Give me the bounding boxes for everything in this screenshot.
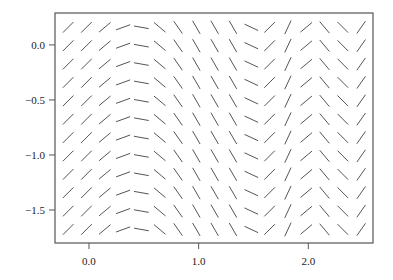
slope-segment [63,132,74,143]
slope-segment [338,22,349,33]
slope-segment [63,169,74,180]
slope-segment [211,21,219,34]
slope-segment [154,59,165,69]
slope-segment [320,187,330,198]
slope-segment [285,94,291,108]
slope-segment [320,40,330,51]
slope-segment [193,186,201,199]
slope-segment [81,132,92,143]
slope-segment [116,227,130,232]
slope-segment [300,170,312,180]
slope-segment [134,81,149,84]
slope-segment [193,58,201,71]
y-tick-label: −0.5 [25,94,45,106]
slope-segment [338,96,349,107]
slope-segment [63,151,74,162]
slope-segment [81,22,92,33]
slope-segment [338,187,349,198]
slope-segment [174,21,183,33]
slope-segment [211,168,219,181]
slope-segment [154,206,165,216]
slope-segment [174,113,183,125]
slope-segment [264,224,275,235]
slope-segment [99,206,110,216]
slope-segment [264,22,275,33]
y-tick-label: 0.0 [31,39,45,51]
slope-segment [229,94,237,107]
slope-segment [357,21,366,33]
slope-segment [211,205,219,218]
slope-segment [81,96,92,107]
slope-segment [338,151,349,162]
slope-segment [63,77,74,88]
slope-segment [300,188,312,198]
slope-segment [99,22,110,32]
slope-segment [116,135,130,140]
slope-segment [81,40,92,51]
y-tick-label: −1.5 [25,204,45,216]
slope-segment [193,205,201,218]
slope-segment [174,76,183,88]
slope-segment [264,132,275,143]
slope-segment [99,151,110,161]
slope-segment [116,25,130,30]
slope-segment [320,77,330,89]
slope-segment [244,208,258,214]
slope-segment [116,153,130,158]
slope-segment [357,58,366,70]
slope-segment [63,187,74,198]
slope-segment [116,98,130,103]
slope-segment [99,225,110,235]
slope-segment [81,114,92,125]
slope-segment [285,204,291,218]
slope-segment [244,61,258,67]
slope-segment [116,172,130,177]
slope-segment [154,170,165,180]
slope-segment [116,209,130,214]
slope-segment [300,114,312,124]
slope-segment [99,78,110,88]
slope-segment [285,131,291,145]
slope-segment [134,155,149,158]
slope-segment [264,40,275,51]
slope-segment [338,114,349,125]
slope-segment [264,114,275,125]
slope-segment [229,168,237,181]
slope-segment [154,22,165,32]
slope-segment [193,113,201,126]
slope-segment [134,100,149,103]
slope-segment [229,205,237,218]
slope-segment [99,188,110,198]
slope-segment [134,44,149,47]
slope-segment [229,58,237,71]
slope-segment [134,118,149,121]
slope-segment [193,168,201,181]
slope-segment [174,150,183,162]
slope-segment [211,76,219,89]
slope-segment [154,114,165,124]
slope-segment [320,132,330,143]
slope-segment [244,116,258,122]
slope-segment [116,117,130,122]
slope-segment [320,58,330,69]
slope-segment [174,205,183,217]
slope-segment [154,188,165,198]
slope-segment [99,59,110,69]
slope-segment [99,133,110,143]
slope-segment [63,224,74,235]
slope-segment [154,151,165,161]
slope-segments [63,21,366,237]
slope-segment [99,170,110,180]
slope-segment [81,206,92,217]
slope-segment [285,57,291,71]
slope-segment [320,95,330,106]
slope-segment [174,58,183,70]
slope-segment [154,78,165,88]
slope-segment [244,171,258,177]
slope-segment [229,223,237,236]
slope-segment [264,169,275,180]
slope-segment [320,205,330,216]
slope-segment [154,41,165,51]
slope-segment [338,77,349,88]
slope-segment [193,39,201,52]
